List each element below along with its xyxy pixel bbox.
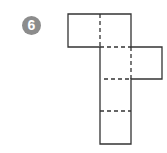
cube-net-diagram — [0, 0, 167, 153]
